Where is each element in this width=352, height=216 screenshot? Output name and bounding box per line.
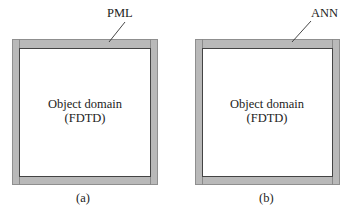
caption-b: (b) <box>259 191 274 206</box>
ann-leader-line <box>0 0 352 216</box>
